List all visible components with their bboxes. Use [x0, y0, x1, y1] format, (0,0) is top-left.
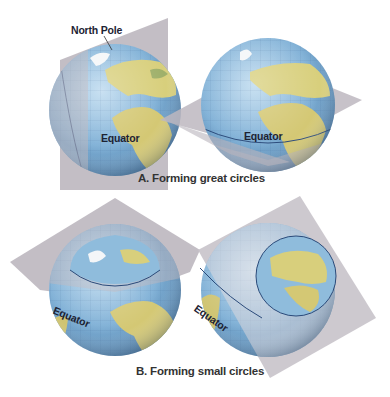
globe-b2	[195, 196, 376, 378]
caption-small-circles: B. Forming small circles	[136, 365, 264, 377]
globe-b1	[10, 198, 200, 370]
caption-great-circles: A. Forming great circles	[138, 172, 265, 184]
equator-label-a1: Equator	[101, 132, 139, 144]
equator-label-a2: Equator	[244, 130, 282, 142]
globes-diagram	[0, 0, 390, 397]
north-pole-label: North Pole	[71, 24, 122, 36]
